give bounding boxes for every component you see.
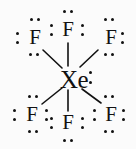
lone-pair-dot-f-top-center-above xyxy=(63,10,66,13)
lone-pair-dot-f-top-left-below xyxy=(29,53,32,56)
lone-pair-dot-f-bot-right-below xyxy=(104,130,107,133)
lone-pair-dot-f-bot-right-above xyxy=(111,95,114,98)
lone-pair-dot-f-bot-center-below xyxy=(63,139,66,142)
lone-pair-dot-f-top-right-below xyxy=(104,53,107,56)
lone-pair-dot-f-bot-center-right xyxy=(81,117,84,120)
lone-pair-dot-f-bot-left-below xyxy=(28,130,31,133)
fluorine-bottom-right: F xyxy=(102,104,120,125)
fluorine-top-left: F xyxy=(26,27,44,48)
lone-pair-dot-f-top-left-below xyxy=(36,53,39,56)
lone-pair-dot-f-top-right-below xyxy=(111,53,114,56)
xenon: Xe xyxy=(57,67,91,92)
lone-pair-dot-f-top-center-right xyxy=(81,24,84,27)
lone-pair-dot-f-top-left-left xyxy=(16,41,19,44)
lone-pair-dot-f-bot-center-right xyxy=(81,126,84,129)
lone-pair-dot-f-top-right-above xyxy=(111,18,114,21)
lone-pair-dot-f-top-left-above xyxy=(30,18,33,21)
lone-pair-dot-f-bot-right-right xyxy=(122,118,125,121)
fluorine-bottom-left: F xyxy=(23,104,41,125)
lone-pair-dot-f-top-center-right xyxy=(81,33,84,36)
lone-pair-dot-f-bot-left-left xyxy=(13,109,16,112)
lone-pair-dot-f-bot-right-right xyxy=(122,109,125,112)
lone-pair-dot-f-bot-right-above xyxy=(104,95,107,98)
lone-pair-dot-f-bot-left-right xyxy=(45,109,48,112)
lone-pair-dot-f-bot-left-above xyxy=(28,95,31,98)
lone-pair-dot-f-bot-left-right xyxy=(45,118,48,121)
lone-pair-dot-f-top-right-right xyxy=(121,32,124,35)
lone-pair-dot-f-top-right-above xyxy=(104,18,107,21)
fluorine-bottom-center: F xyxy=(59,112,77,133)
lone-pair-dot-f-bot-left-above xyxy=(35,95,38,98)
fluorine-top-center: F xyxy=(59,19,77,40)
lone-pair-dot-f-top-center-left xyxy=(50,24,53,27)
lone-pair-dot-f-bot-left-left xyxy=(13,118,16,121)
lewis-structure-figure: FFFFFFXe xyxy=(0,0,136,149)
lone-pair-dot-f-top-left-above xyxy=(37,18,40,21)
lone-pair-dot-f-top-center-above xyxy=(70,10,73,13)
lone-pair-dot-f-bot-right-left xyxy=(93,118,96,121)
lone-pair-dot-f-top-left-left xyxy=(16,32,19,35)
lone-pair-dot-f-bot-center-below xyxy=(70,139,73,142)
lone-pair-dot-f-bot-right-left xyxy=(93,109,96,112)
bond-top-right xyxy=(80,50,98,67)
lone-pair-dot-f-bot-center-left xyxy=(50,117,53,120)
lone-pair-dot-f-top-center-left xyxy=(50,33,53,36)
lone-pair-dot-f-bot-left-below xyxy=(35,130,38,133)
lone-pair-dot-f-bot-right-below xyxy=(111,130,114,133)
fluorine-top-right: F xyxy=(102,27,120,48)
lone-pair-dot-f-top-right-right xyxy=(121,41,124,44)
lone-pair-dot-f-bot-center-left xyxy=(50,126,53,129)
